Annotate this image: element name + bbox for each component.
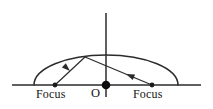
origin-point: [102, 81, 111, 90]
origin-label: O: [91, 87, 100, 100]
ray-to-right-focus: [85, 57, 152, 85]
ellipse-foci-diagram: Focus O Focus: [0, 0, 213, 109]
diagram-canvas: [0, 0, 213, 109]
ray-right-arrowhead-icon: [125, 71, 135, 80]
focus-left-label: Focus: [36, 88, 66, 100]
focus-right-label: Focus: [133, 88, 163, 100]
ray-left-arrowhead-icon: [62, 63, 72, 73]
